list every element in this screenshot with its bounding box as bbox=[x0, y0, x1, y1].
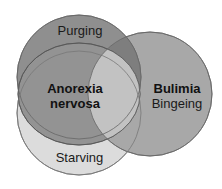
starving-label: Starving bbox=[52, 151, 107, 165]
anorexia-label-line2: nervosa bbox=[45, 97, 105, 111]
bulimia-label: Bulimia bbox=[147, 82, 207, 96]
anorexia-label-line1: Anorexia bbox=[45, 82, 105, 96]
purging-label: Purging bbox=[55, 24, 105, 38]
venn-diagram: Purging Anorexia nervosa Starving Bulimi… bbox=[0, 0, 222, 189]
bingeing-label: Bingeing bbox=[147, 97, 207, 111]
